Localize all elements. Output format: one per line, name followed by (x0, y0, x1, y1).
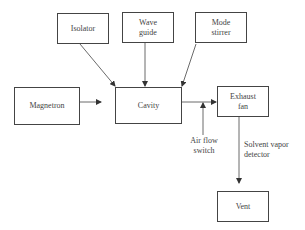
node-isolator: Isolator (57, 13, 109, 44)
node-isolator-label: Isolator (71, 24, 95, 34)
node-wave-guide-line2: guide (139, 28, 157, 38)
annotation-solvent-vapor-detector: Solvent vapor detector (244, 140, 304, 160)
node-cavity-label: Cavity (138, 101, 159, 111)
arrow-isolator-to-cavity (80, 44, 115, 86)
node-wave-guide-line1: Wave (139, 18, 157, 28)
node-mode-stirrer: Mode stirrer (195, 12, 247, 43)
node-exhaust-fan-line1: Exhaust (230, 92, 256, 102)
annotation-air-flow-switch-line1: Air flow (182, 136, 226, 146)
node-magnetron-label: Magnetron (29, 101, 64, 111)
node-cavity: Cavity (115, 87, 182, 124)
node-vent: Vent (217, 191, 269, 222)
node-exhaust-fan-line2: fan (238, 102, 248, 112)
annotation-air-flow-switch-line2: switch (182, 146, 226, 156)
node-magnetron: Magnetron (14, 87, 80, 125)
annotation-solvent-vapor-detector-line1: Solvent vapor (244, 140, 304, 150)
node-mode-stirrer-line1: Mode (212, 18, 231, 28)
node-vent-label: Vent (236, 202, 251, 212)
arrow-modestirrer-to-cavity (182, 44, 196, 86)
annotation-solvent-vapor-detector-line2: detector (244, 150, 304, 160)
node-mode-stirrer-line2: stirrer (211, 28, 230, 38)
node-wave-guide: Wave guide (122, 12, 174, 43)
node-exhaust-fan: Exhaust fan (217, 86, 269, 117)
annotation-air-flow-switch: Air flow switch (182, 136, 226, 156)
